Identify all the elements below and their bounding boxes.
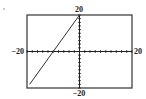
ymin-label: −20 [73,89,86,98]
xmax-label: 20 [134,47,142,56]
ymax-label: 20 [75,5,83,14]
plot-series [30,15,80,84]
xmin-label: −20 [11,47,24,56]
stray-mark [3,8,5,10]
series-line [30,15,80,84]
graph-window: 20 −20 −20 20 [0,0,146,99]
